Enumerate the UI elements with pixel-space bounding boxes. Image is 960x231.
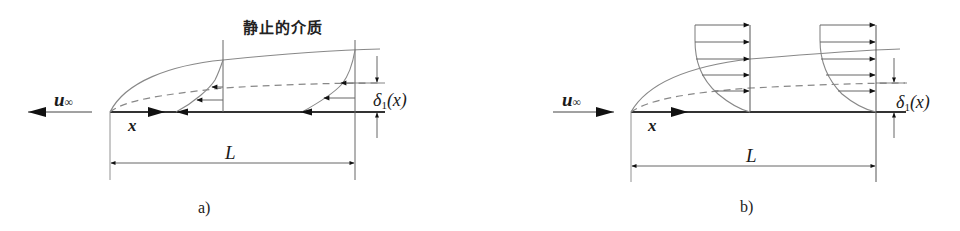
freestream-subscript-a: ∞	[65, 95, 74, 109]
delta-argument-a: (x)	[387, 90, 407, 110]
velocity-profile-2-b	[820, 25, 876, 112]
panel-b	[553, 25, 907, 182]
delta-argument-b: (x)	[910, 92, 930, 112]
displacement-thickness-label-a: δ1(x)	[373, 91, 407, 111]
freestream-symbol-a: u	[54, 89, 65, 110]
panel-a	[28, 40, 385, 180]
length-label-b: L	[746, 146, 757, 165]
freestream-velocity-label-b: u∞	[562, 90, 581, 109]
panel-caption-a: a)	[198, 200, 210, 216]
panel-caption-b: b)	[740, 199, 753, 215]
boundary-layer-edge-a	[110, 49, 380, 112]
freestream-arrowhead-a	[28, 107, 46, 117]
boundary-layer-diagram	[0, 0, 960, 231]
freestream-arrowhead-b	[596, 107, 614, 117]
velocity-profile-1-a	[176, 60, 223, 112]
stationary-medium-title: 静止的介质	[243, 16, 323, 37]
freestream-velocity-label-a: u∞	[54, 90, 73, 109]
boundary-layer-edge-b	[631, 49, 900, 112]
freestream-subscript-b: ∞	[573, 95, 582, 109]
freestream-symbol-b: u	[562, 89, 573, 110]
x-direction-arrowhead-b	[671, 107, 688, 117]
velocity-profile-1-b	[695, 25, 750, 112]
length-label-a: L	[225, 143, 236, 162]
displacement-thickness-label-b: δ1(x)	[896, 93, 930, 113]
x-axis-label-b: x	[648, 117, 657, 134]
x-direction-arrowhead-a	[148, 107, 165, 117]
x-axis-label-a: x	[128, 117, 137, 134]
velocity-profile-2-a	[302, 50, 355, 112]
